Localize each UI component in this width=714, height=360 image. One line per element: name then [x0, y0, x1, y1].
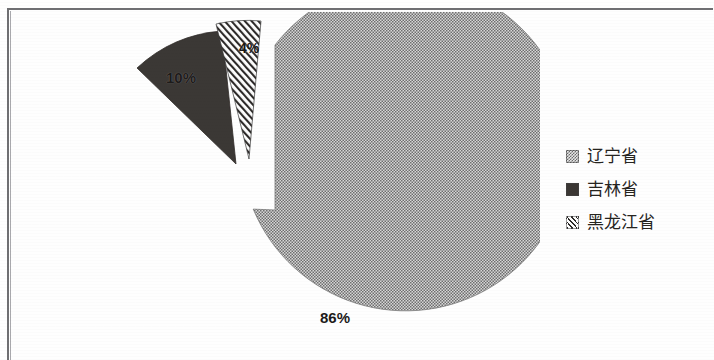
pie-chart-plot-area: 86% 10% 4%: [20, 12, 540, 356]
legend-swatch-solid-dark-icon: [566, 183, 579, 196]
legend-label-heilongjiang: 黑龙江省: [587, 214, 655, 231]
legend-label-jilin: 吉林省: [587, 181, 638, 198]
pie-slice-jilin: [137, 31, 236, 164]
chart-legend: 辽宁省 吉林省 黑龙江省: [566, 140, 696, 239]
legend-swatch-diagonal-hatch-icon: [566, 216, 579, 229]
legend-item-liaoning: 辽宁省: [566, 140, 696, 173]
pie-slice-label-heilongjiang: 4%: [239, 40, 259, 56]
pie-slice-label-liaoning: 86%: [320, 309, 350, 326]
legend-swatch-dotted-gray-icon: [566, 150, 579, 163]
legend-label-liaoning: 辽宁省: [587, 148, 638, 165]
pie-chart-screenshot: 86% 10% 4% 辽宁省 吉林省 黑龙江省: [0, 0, 714, 360]
pie-slice-liaoning: [253, 12, 540, 311]
legend-item-heilongjiang: 黑龙江省: [566, 206, 696, 239]
pie-slice-label-jilin: 10%: [166, 69, 196, 86]
legend-item-jilin: 吉林省: [566, 173, 696, 206]
pie-chart-graphic: [20, 12, 540, 356]
